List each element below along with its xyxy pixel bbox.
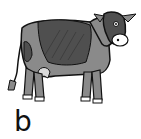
cow-tail-tuft: [8, 80, 16, 90]
cow-back-leg-2: [34, 72, 44, 98]
figure-label: b: [14, 108, 32, 136]
cow-front-leg-2: [92, 70, 102, 100]
cow-illustration: [0, 0, 141, 110]
cow-muzzle: [112, 34, 128, 46]
cow-front-leg-1: [82, 72, 92, 98]
cow-patch-large: [38, 20, 91, 65]
cow-nostril: [117, 39, 119, 41]
cow-back-leg-1: [24, 68, 34, 96]
